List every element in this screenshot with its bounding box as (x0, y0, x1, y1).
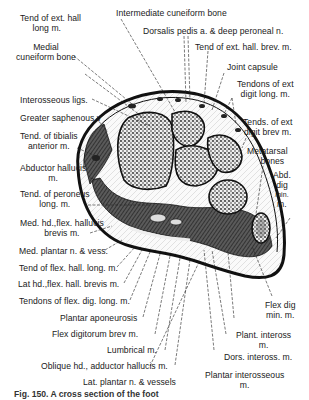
label-lat-hd-flex-hall-brevis: Lat hd.,flex. hall. brevis m. (18, 279, 119, 289)
label-line: Metatarsal (247, 146, 288, 156)
intermediate-cuneiform-bone (172, 111, 204, 146)
label-line: min. m. (265, 310, 296, 320)
label-abd-dig-min: Abd. dig min. m. (273, 171, 291, 209)
label-tend-peroneus-long: Tend. of peroneus long. m. (20, 189, 90, 209)
label-tendons-ext-digit-long: Tendons of ext digit long. m. (237, 79, 294, 99)
label-plant-inteross: Plant. inteross m. (236, 330, 291, 350)
label-line: Flex dig (265, 300, 296, 310)
label-tend-flex-hall-long: Tend of flex. hall. long. m. (19, 263, 118, 273)
label-tend-ext-hall-long: Tend of ext. hall long m. (20, 13, 81, 33)
label-line: digit brev m. (243, 127, 292, 137)
label-line: Med. hd.,flex. hallucis (20, 218, 104, 228)
label-med-hd-flex-hallucis-brevis: Med. hd.,flex. hallucis brevis m. (20, 218, 104, 238)
label-line: Tend. of peroneus (20, 189, 90, 199)
label-tend-tibialis-anterior: Tend. of tibialis anterior m. (20, 131, 78, 151)
label-line: m. (236, 340, 291, 350)
label-line: Abductor hallucis (20, 163, 86, 173)
label-line: long m. (20, 23, 81, 33)
label-intermediate-cuneiform-bone: Intermediate cuneiform bone (116, 8, 227, 18)
label-line: m. (273, 200, 291, 210)
label-joint-capsule: Joint capsule (227, 62, 278, 72)
label-line: Medial (16, 42, 76, 52)
label-flex-dig-min: Flex dig min. m. (265, 300, 296, 320)
figure-caption: Fig. 150. A cross section of the foot (14, 389, 159, 399)
label-lumbrical: Lumbrical m. (107, 345, 157, 355)
label-line: anterior m. (20, 141, 78, 151)
label-line: brevis m. (20, 228, 104, 238)
label-line: Tendons of ext (237, 79, 294, 89)
label-lat-plantar-n-vessels: Lat. plantar n. & vessels (83, 377, 176, 387)
label-flex-digitorum-brev: Flex digitorum brev m. (52, 329, 138, 339)
label-metatarsal-bones: Metatarsal bones (247, 146, 288, 166)
label-line: dig (273, 181, 291, 191)
label-tendons-flex-dig-long: Tendons of flex. dig. long. m. (19, 296, 130, 306)
label-med-plantar-n-vess: Med. plantar n. & vess. (19, 246, 108, 256)
label-line: Tend. of tibialis (20, 131, 78, 141)
label-dors-inteross: Dors. inteross. m. (224, 352, 292, 362)
label-greater-saphenous-v: Greater saphenous v (20, 113, 101, 123)
label-line: cuneiform bone (16, 52, 76, 62)
label-line: long. m. (20, 199, 90, 209)
label-line: bones (247, 156, 288, 166)
label-line: Plant. inteross (236, 330, 291, 340)
label-interosseous-ligs: Interosseous ligs. (20, 95, 88, 105)
label-line: Tends. of ext (243, 117, 292, 127)
label-line: m. (205, 380, 284, 390)
label-oblique-hd-adductor-hallucis: Oblique hd., adductor hallucis m. (41, 361, 168, 371)
label-tend-ext-hall-brev: Tend of ext. hall. brev. m. (195, 42, 292, 52)
label-dorsalis-pedis: Dorsalis pedis a. & deep peroneal n. (143, 26, 283, 36)
label-line: Plantar interosseous (205, 370, 284, 380)
label-line: m. (20, 173, 86, 183)
label-medial-cuneiform-bone: Medial cuneiform bone (16, 42, 76, 62)
label-plantar-interosseous: Plantar interosseous m. (205, 370, 284, 390)
label-tends-ext-digit-brev: Tends. of ext digit brev m. (243, 117, 292, 137)
metatarsal-bone-4 (209, 180, 247, 214)
label-abductor-hallucis: Abductor hallucis m. (20, 163, 86, 183)
label-line: Tend of ext. hall (20, 13, 81, 23)
label-line: digit long. m. (237, 89, 294, 99)
label-plantar-aponeurosis: Plantar aponeurosis (60, 313, 137, 323)
